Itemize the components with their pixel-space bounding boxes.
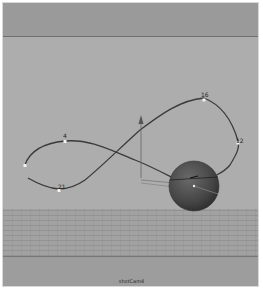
curve-point-12[interactable]: 12: [236, 137, 244, 145]
camera-name-label: shotCam4: [0, 278, 263, 284]
point-label: 12: [236, 137, 244, 144]
curve-endpoint[interactable]: [24, 164, 27, 167]
curve-point-21[interactable]: 21: [58, 183, 66, 192]
sphere-object[interactable]: [169, 161, 219, 211]
curve-point-4[interactable]: 4: [63, 132, 67, 143]
point-label: 21: [58, 183, 66, 190]
point-label: 4: [63, 132, 67, 139]
scene-canvas[interactable]: 4 16 12 21: [0, 0, 263, 297]
point-label: 16: [201, 91, 209, 98]
